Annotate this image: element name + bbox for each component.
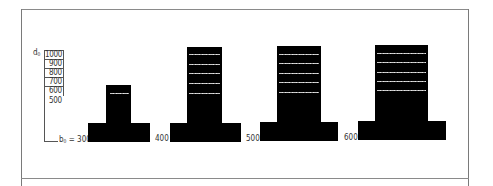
- rebar-line-800: [189, 73, 220, 74]
- rebar-line-600: [377, 90, 426, 91]
- scale-bottom-line: [44, 141, 58, 142]
- frame-right-border: [468, 9, 469, 186]
- footing-stem: [277, 46, 321, 123]
- rebar-line-700: [279, 82, 319, 83]
- rebar-line-700: [189, 83, 220, 84]
- rebar-line-800: [279, 73, 319, 74]
- frame-top-border: [21, 9, 469, 10]
- scale-label-800: 800: [49, 68, 62, 77]
- scale-label-600: 600: [49, 86, 62, 95]
- rebar-line-700: [377, 81, 426, 82]
- rebar-line-1000: [377, 53, 426, 54]
- scale-label-1000: 1000: [45, 50, 62, 59]
- rebar-line-1000: [279, 54, 319, 55]
- footing-base: [88, 123, 150, 142]
- depth-axis-label: d0: [33, 48, 40, 59]
- frame-bottom-border: [21, 178, 469, 179]
- scale-label-500: 500: [49, 96, 62, 105]
- footing-base: [358, 121, 446, 140]
- rebar-line-800: [377, 72, 426, 73]
- scale-label-700: 700: [49, 77, 62, 86]
- footing-stem: [187, 47, 222, 124]
- width-axis-label: b0 = 300: [59, 135, 91, 146]
- width-label-500: 500: [246, 134, 260, 143]
- rebar-line-900: [189, 64, 220, 65]
- width-label-400: 400: [155, 134, 169, 143]
- footing-stem: [375, 45, 428, 122]
- rebar-line-600: [110, 93, 129, 94]
- frame-left-border: [21, 9, 22, 186]
- rebar-line-1000: [189, 54, 220, 55]
- rebar-line-600: [279, 92, 319, 93]
- footing-base: [260, 122, 338, 141]
- rebar-line-900: [279, 63, 319, 64]
- width-subscript: 0: [64, 138, 67, 144]
- rebar-line-900: [377, 62, 426, 63]
- depth-subscript: 0: [38, 51, 41, 57]
- footing-base: [170, 123, 241, 142]
- scale-label-900: 900: [49, 59, 62, 68]
- footing-stem: [106, 85, 131, 124]
- rebar-line-600: [189, 93, 220, 94]
- width-label-600: 600: [344, 133, 358, 142]
